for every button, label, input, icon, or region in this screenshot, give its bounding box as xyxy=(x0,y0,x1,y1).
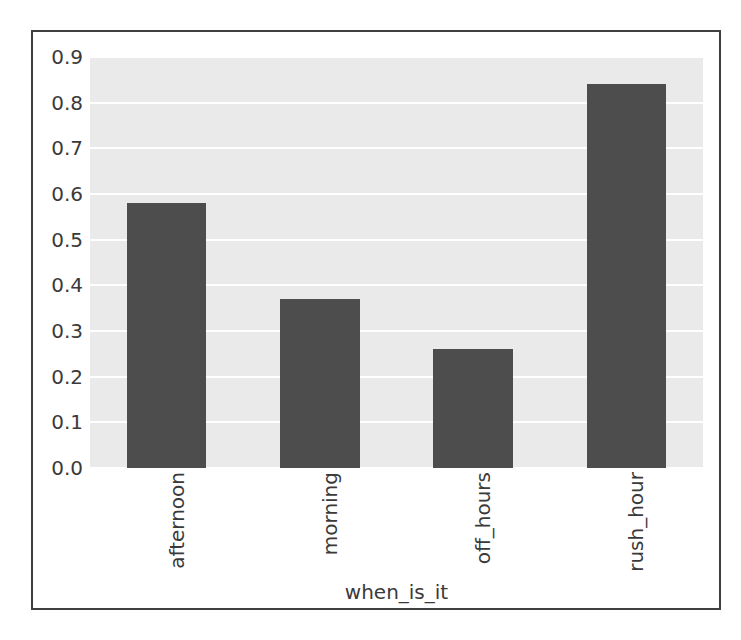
figure-frame: 0.00.10.20.30.40.50.60.70.80.9 afternoon… xyxy=(31,30,721,610)
y-axis-tick-label: 0.6 xyxy=(35,184,83,204)
y-axis-tick-label: 0.4 xyxy=(35,275,83,295)
y-axis-tick-label: 0.9 xyxy=(35,47,83,67)
bar xyxy=(433,349,513,468)
x-axis-tick-label: morning xyxy=(320,472,340,555)
y-axis-tick-labels: 0.00.10.20.30.40.50.60.70.80.9 xyxy=(33,57,83,468)
x-axis-tick-label: afternoon xyxy=(167,472,187,569)
bar xyxy=(127,203,207,468)
plot-area xyxy=(90,57,703,468)
y-axis-tick-label: 0.1 xyxy=(35,412,83,432)
x-axis-title: when_is_it xyxy=(90,580,703,604)
x-axis-tick-labels: afternoonmorningoff_hoursrush_hour xyxy=(90,468,703,578)
y-axis-tick-label: 0.0 xyxy=(35,458,83,478)
x-axis-tick-label: rush_hour xyxy=(626,472,646,572)
y-axis-tick-label: 0.8 xyxy=(35,93,83,113)
x-axis-tick-label: off_hours xyxy=(473,472,493,564)
y-axis-tick-label: 0.5 xyxy=(35,230,83,250)
bar xyxy=(280,299,360,468)
y-axis-tick-label: 0.3 xyxy=(35,321,83,341)
gridline xyxy=(90,57,703,58)
y-axis-tick-label: 0.7 xyxy=(35,138,83,158)
y-axis-tick-label: 0.2 xyxy=(35,367,83,387)
bar xyxy=(587,84,667,468)
